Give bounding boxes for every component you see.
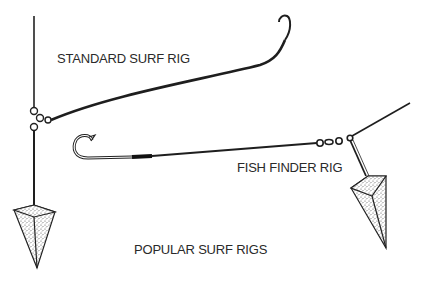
pyramid-sinker-icon <box>14 205 55 268</box>
hook-icon <box>279 15 290 40</box>
standard-rig-label: STANDARD SURF RIG <box>57 51 190 66</box>
main-line <box>352 103 410 136</box>
leader-line <box>152 143 317 156</box>
sinker-slide <box>350 140 366 176</box>
fish-finder-rig-label: FISH FINDER RIG <box>237 160 342 175</box>
hook-icon <box>74 136 132 159</box>
leader-crimp <box>132 156 152 157</box>
pyramid-sinker-icon <box>351 176 386 248</box>
figure-caption: POPULAR SURF RIGS <box>134 242 267 257</box>
fish-finder-rig <box>74 103 410 248</box>
three-way-swivel-icon <box>31 108 52 131</box>
barrel-swivel-icon <box>317 135 353 146</box>
